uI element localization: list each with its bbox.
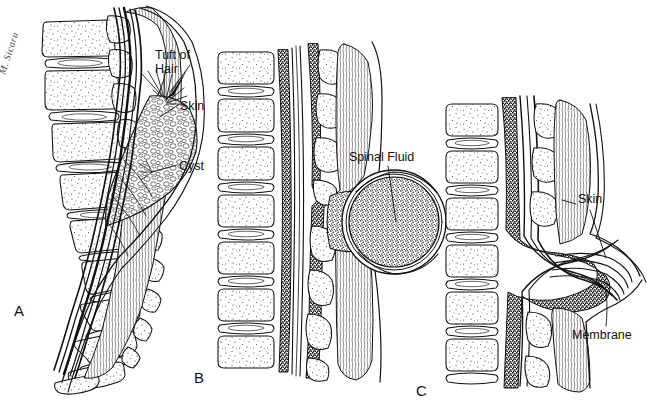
spina-bifida-figure: Tuft ofHair Skin Cyst Spinal Fluid Skin … <box>0 0 650 412</box>
label-tuft-of-hair-line1: Tuft of <box>155 48 190 62</box>
label-skin-panel-a: Skin <box>180 99 204 113</box>
label-tuft-of-hair-line2: Hair <box>155 62 178 76</box>
label-membrane: Membrane <box>572 328 632 342</box>
label-cyst: Cyst <box>179 159 204 173</box>
label-spinal-fluid: Spinal Fluid <box>349 150 414 164</box>
panel-letter-b: B <box>194 369 204 386</box>
panel-b-artwork <box>218 42 446 382</box>
panel-c-artwork <box>446 96 646 392</box>
label-tuft-of-hair: Tuft ofHair <box>155 48 190 76</box>
illustration-artwork <box>0 0 650 412</box>
spinal-fluid-region <box>349 177 439 267</box>
panel-b-vertebrae <box>218 52 274 368</box>
panel-c-vertebrae <box>446 104 498 384</box>
panel-letter-a: A <box>14 302 24 319</box>
label-skin-panel-c: Skin <box>578 192 602 206</box>
panel-c-skin-top <box>590 104 640 276</box>
panel-letter-c: C <box>416 382 427 399</box>
